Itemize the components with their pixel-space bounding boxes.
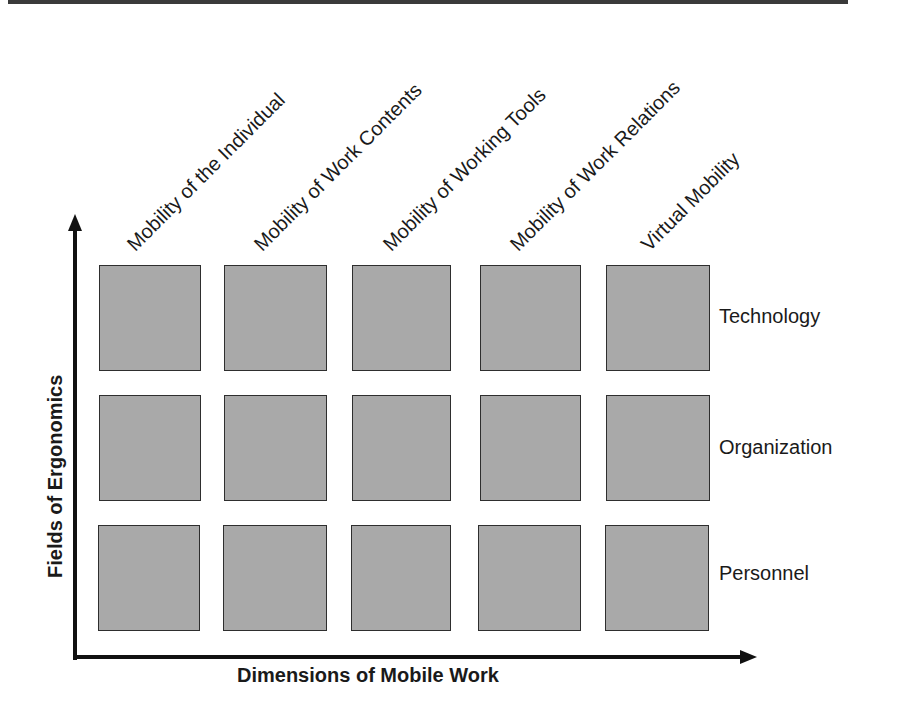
cell-personnel-work-contents [223,525,327,631]
cell-technology-work-relations [480,265,581,371]
cell-technology-working-tools [352,265,451,371]
cell-organization-individual [99,395,201,501]
cell-technology-virtual-mobility [606,265,710,371]
y-axis-label: Fields of Ergonomics [44,375,67,578]
row-label-organization: Organization [719,436,832,459]
cell-personnel-virtual-mobility [605,525,709,631]
cell-technology-work-contents [224,265,327,371]
cell-organization-work-relations [480,395,581,501]
mobile-work-ergonomics-matrix: Mobility of the Individual Mobility of W… [0,0,899,716]
cell-personnel-working-tools [351,525,451,631]
cell-organization-working-tools [352,395,451,501]
row-label-personnel: Personnel [719,562,809,585]
cell-organization-work-contents [224,395,327,501]
row-label-technology: Technology [719,305,820,328]
y-axis-arrow [68,214,82,660]
cell-personnel-individual [98,525,200,631]
x-axis-label: Dimensions of Mobile Work [237,664,499,687]
cell-organization-virtual-mobility [606,395,710,501]
cell-technology-individual [99,265,201,371]
x-axis-arrow [73,650,757,664]
cell-personnel-work-relations [478,525,581,631]
